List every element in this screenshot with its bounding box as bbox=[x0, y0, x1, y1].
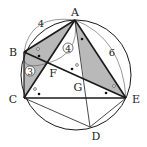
angle-mark-dot bbox=[71, 68, 74, 71]
length-label-BF: 3 bbox=[27, 67, 33, 77]
angle-mark-ring bbox=[37, 48, 40, 51]
segment-CD bbox=[24, 98, 90, 127]
angle-mark-dot bbox=[38, 93, 41, 96]
angle-mark-ring bbox=[76, 64, 79, 67]
point-label-E: E bbox=[132, 93, 140, 106]
angle-mark-ring bbox=[113, 85, 116, 88]
point-label-G: G bbox=[74, 81, 83, 94]
geometry-diagram: 3 4 4 6 A B C D E F G bbox=[0, 0, 147, 147]
point-label-B: B bbox=[9, 46, 17, 59]
angle-mark-dot bbox=[38, 55, 41, 58]
point-label-F: F bbox=[49, 67, 57, 80]
point-label-D: D bbox=[92, 130, 101, 143]
angle-mark-dot bbox=[81, 38, 84, 41]
angle-mark-dot bbox=[105, 92, 108, 95]
length-label-AE: 6 bbox=[109, 47, 115, 58]
angle-mark-ring bbox=[34, 88, 37, 91]
segment-DE bbox=[90, 98, 126, 127]
length-label-AF: 4 bbox=[65, 44, 71, 54]
point-label-C: C bbox=[9, 93, 17, 106]
length-label-AB: 4 bbox=[38, 18, 44, 29]
point-label-A: A bbox=[70, 6, 80, 19]
